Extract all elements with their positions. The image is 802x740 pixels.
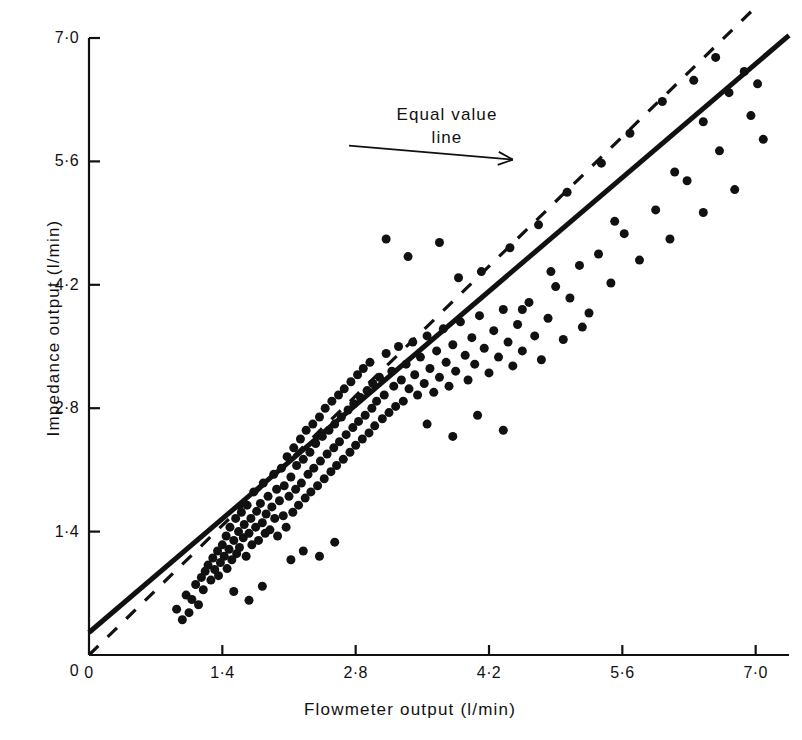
data-point	[243, 501, 252, 510]
data-point	[518, 305, 527, 314]
data-point	[423, 420, 432, 429]
data-point	[625, 129, 634, 138]
data-point	[249, 487, 258, 496]
data-point	[337, 413, 346, 422]
annotation-line-1: Equal value	[397, 105, 498, 124]
data-point	[313, 481, 322, 490]
data-point	[397, 375, 406, 384]
data-point	[269, 470, 278, 479]
data-point	[225, 523, 234, 532]
data-point	[327, 397, 336, 406]
data-point	[270, 514, 279, 523]
data-point	[387, 367, 396, 376]
data-point	[315, 413, 324, 422]
equal-value-line-annotation: Equal value line	[352, 104, 542, 150]
data-point	[753, 79, 762, 88]
data-point	[265, 525, 274, 534]
data-point	[513, 320, 522, 329]
data-point	[467, 333, 476, 342]
data-point	[399, 397, 408, 406]
data-point	[237, 508, 246, 517]
data-point	[222, 532, 231, 541]
data-point	[740, 67, 749, 76]
data-point	[288, 508, 297, 517]
data-point	[525, 298, 534, 307]
scatter-plot-figure: 01·42·84·25·67·0 01·42·84·25·67·0 Flowme…	[0, 0, 802, 740]
data-point	[172, 605, 181, 614]
data-point	[715, 146, 724, 155]
data-point	[264, 492, 273, 501]
data-point	[368, 379, 377, 388]
data-point	[323, 450, 332, 459]
data-point	[315, 552, 324, 561]
data-point	[565, 294, 574, 303]
data-point	[489, 326, 498, 335]
x-tick-label: 7·0	[743, 664, 767, 682]
data-point	[378, 414, 387, 423]
data-point	[258, 582, 267, 591]
data-point	[191, 580, 200, 589]
data-point	[320, 474, 329, 483]
data-point	[594, 249, 603, 258]
data-point	[359, 364, 368, 373]
data-point	[432, 346, 441, 355]
y-tick-label: 0	[31, 662, 79, 680]
data-point	[456, 317, 465, 326]
data-point	[302, 426, 311, 435]
data-point	[256, 499, 265, 508]
data-point	[420, 379, 429, 388]
data-point	[267, 502, 276, 511]
data-point	[306, 487, 315, 496]
data-point	[380, 390, 389, 399]
data-point	[321, 404, 330, 413]
data-point	[365, 428, 374, 437]
data-point	[372, 397, 381, 406]
data-point	[375, 373, 384, 382]
data-point	[292, 461, 301, 470]
data-point	[429, 388, 438, 397]
data-point	[279, 511, 288, 520]
x-tick-label: 2·8	[343, 664, 367, 682]
y-tick-label: 7·0	[31, 29, 79, 47]
data-point	[349, 399, 358, 408]
data-point	[354, 417, 363, 426]
data-point	[330, 538, 339, 547]
data-point	[402, 360, 411, 369]
data-point	[391, 402, 400, 411]
data-point	[185, 608, 194, 617]
data-point	[262, 509, 271, 518]
data-point	[505, 243, 514, 252]
data-point	[225, 545, 234, 554]
data-point	[286, 555, 295, 564]
data-point	[464, 375, 473, 384]
data-point	[275, 496, 284, 505]
data-point	[280, 481, 289, 490]
data-point	[445, 382, 454, 391]
data-point	[689, 76, 698, 85]
data-point	[214, 571, 223, 580]
data-point	[361, 411, 370, 420]
data-point	[448, 340, 457, 349]
data-point	[699, 208, 708, 217]
data-point	[178, 615, 187, 624]
data-point	[485, 368, 494, 377]
data-point	[610, 217, 619, 226]
data-point	[346, 377, 355, 386]
data-point	[223, 564, 232, 573]
data-point	[308, 420, 317, 429]
data-point	[559, 335, 568, 344]
data-point	[316, 457, 325, 466]
data-point	[389, 382, 398, 391]
data-point	[442, 358, 451, 367]
data-point	[245, 596, 254, 605]
data-point	[658, 97, 667, 106]
data-point	[451, 367, 460, 376]
data-point	[240, 520, 249, 529]
data-point	[508, 361, 517, 370]
data-point	[297, 479, 306, 488]
data-point	[635, 256, 644, 265]
data-point	[499, 426, 508, 435]
data-point	[423, 331, 432, 340]
data-point	[551, 282, 560, 291]
data-point	[518, 346, 527, 355]
